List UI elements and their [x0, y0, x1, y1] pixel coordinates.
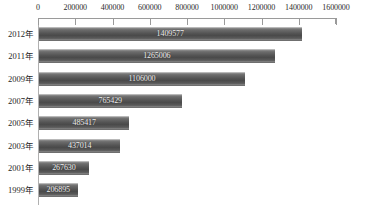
category-label: 2011年 [0, 46, 34, 66]
category-label: 2012年 [0, 24, 34, 44]
bar-track: 1265006 [39, 46, 336, 66]
x-axis-tick-label: 600000 [138, 3, 161, 13]
bar-value-label: 206895 [47, 183, 70, 197]
x-axis-tick-label: 1400000 [285, 3, 312, 13]
bar-row: 2003年437014 [0, 136, 368, 156]
category-label: 2005年 [0, 113, 34, 133]
bar-value-label: 267630 [52, 161, 75, 175]
x-axis-tick-label: 200000 [64, 3, 87, 13]
bar-value-label: 1409577 [157, 27, 184, 41]
x-axis-tick-label: 800000 [175, 3, 198, 13]
bar-track: 267630 [39, 158, 336, 178]
bar-track: 765429 [39, 91, 336, 111]
bar-chart: 0200000400000600000800000100000012000001… [0, 0, 368, 218]
bar-track: 485417 [39, 113, 336, 133]
bar-value-label: 1265006 [143, 49, 170, 63]
bar-track: 1106000 [39, 69, 336, 89]
bar-track: 437014 [39, 136, 336, 156]
x-axis-tick-label: 0 [36, 3, 40, 13]
bar-value-label: 765429 [99, 94, 122, 108]
x-axis-tick-label: 1600000 [322, 3, 349, 13]
x-axis-tick-label: 400000 [101, 3, 124, 13]
x-axis-tick-label: 1000000 [211, 3, 238, 13]
x-axis-tick-label: 1200000 [248, 3, 275, 13]
category-label: 2007年 [0, 91, 34, 111]
bar-value-label: 437014 [68, 139, 91, 153]
bar-row: 2007年765429 [0, 91, 368, 111]
bar-value-label: 485417 [73, 116, 96, 130]
category-label: 2003年 [0, 136, 34, 156]
bar-track: 206895 [39, 180, 336, 200]
category-label: 1999年 [0, 180, 34, 200]
category-label: 2001年 [0, 158, 34, 178]
bar-row: 2011年1265006 [0, 46, 368, 66]
bar-row: 2012年1409577 [0, 24, 368, 44]
bar-row: 2001年267630 [0, 158, 368, 178]
bar-row: 2009年1106000 [0, 69, 368, 89]
bar-value-label: 1106000 [128, 72, 155, 86]
bar-row: 2005年485417 [0, 113, 368, 133]
bar-row: 1999年206895 [0, 180, 368, 200]
bar-track: 1409577 [39, 24, 336, 44]
category-label: 2009年 [0, 69, 34, 89]
